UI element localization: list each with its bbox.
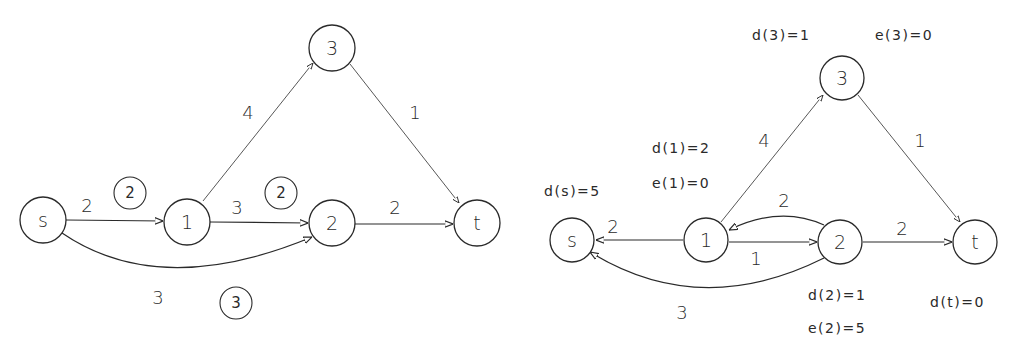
node-2: 2 bbox=[818, 220, 862, 264]
edge-1-3 bbox=[203, 63, 313, 201]
node-1: 1 bbox=[164, 199, 210, 245]
node-label: 1 bbox=[700, 229, 712, 251]
node-t: t bbox=[454, 200, 500, 246]
capacity-label-s-2: 3 bbox=[152, 287, 163, 308]
capacity-label-2-s: 3 bbox=[676, 302, 687, 323]
node-label: 3 bbox=[836, 67, 848, 89]
distance-label-t: d(t)=0 bbox=[930, 294, 985, 310]
flow-badge-1-2: 2 bbox=[265, 177, 297, 209]
node-label: t bbox=[971, 231, 978, 253]
node-s: s bbox=[20, 197, 66, 243]
flow-badge-s-1: 2 bbox=[114, 177, 146, 209]
distance-label-3: d(3)=1 bbox=[752, 27, 810, 43]
left-graph: s 1 2 3 t 2 3 4 1 2 3 2 2 bbox=[20, 25, 500, 319]
excess-label-3: e(3)=0 bbox=[875, 27, 933, 43]
node-label: s bbox=[38, 209, 48, 231]
svg-text:3: 3 bbox=[231, 294, 241, 312]
distance-label-2: d(2)=1 bbox=[808, 287, 866, 303]
edge-2-1 bbox=[729, 216, 824, 230]
excess-label-2: e(2)=5 bbox=[808, 320, 866, 336]
node-label: s bbox=[567, 229, 577, 251]
node-label: 1 bbox=[181, 211, 193, 233]
capacity-label-2-t: 2 bbox=[896, 218, 907, 239]
edge-1-2 bbox=[210, 222, 308, 223]
distance-label-1: d(1)=2 bbox=[652, 140, 710, 156]
capacity-label-1-3: 4 bbox=[758, 130, 769, 151]
svg-text:2: 2 bbox=[276, 184, 286, 202]
node-2: 2 bbox=[309, 200, 355, 246]
diagram-canvas: s 1 2 3 t 2 3 4 1 2 3 2 2 bbox=[0, 0, 1024, 354]
capacity-label-1-3: 4 bbox=[242, 102, 253, 123]
node-t: t bbox=[953, 220, 997, 264]
capacity-label-1-2: 1 bbox=[750, 248, 761, 269]
edge-3-t bbox=[858, 95, 960, 222]
svg-text:2: 2 bbox=[125, 184, 135, 202]
capacity-label-3-t: 1 bbox=[409, 102, 420, 123]
edge-3-t bbox=[350, 64, 459, 203]
capacity-label-2-1: 2 bbox=[778, 190, 789, 211]
node-1: 1 bbox=[684, 218, 728, 262]
node-label: 3 bbox=[326, 37, 338, 59]
capacity-label-3-t: 1 bbox=[914, 130, 925, 151]
right-graph: s 1 2 3 t 2 4 1 2 1 2 3 d(3)=1 e(3)=0 d(… bbox=[544, 27, 997, 336]
capacity-label-s-1: 2 bbox=[81, 195, 92, 216]
capacity-label-1-s: 2 bbox=[607, 216, 618, 237]
excess-label-1: e(1)=0 bbox=[652, 175, 710, 191]
edge-s-1 bbox=[66, 220, 163, 221]
capacity-label-1-2: 3 bbox=[231, 197, 242, 218]
edge-1-3 bbox=[721, 95, 823, 222]
node-s: s bbox=[550, 218, 594, 262]
node-label: 2 bbox=[834, 231, 846, 253]
distance-label-s: d(s)=5 bbox=[544, 183, 601, 199]
flow-badge-s-2: 3 bbox=[220, 287, 252, 319]
node-3: 3 bbox=[309, 25, 355, 71]
node-label: 2 bbox=[326, 212, 338, 234]
capacity-label-2-t: 2 bbox=[389, 197, 400, 218]
node-3: 3 bbox=[820, 56, 864, 100]
node-label: t bbox=[473, 212, 480, 234]
